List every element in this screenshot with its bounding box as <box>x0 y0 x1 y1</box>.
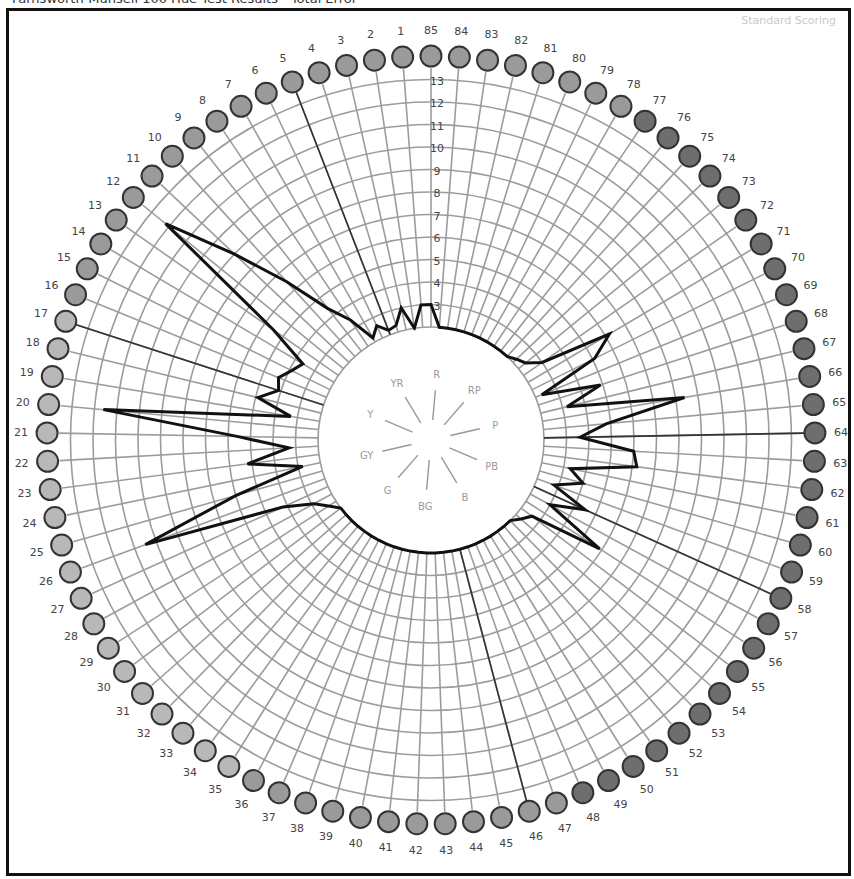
cap-number-label: 5 <box>279 52 286 65</box>
cap-36 <box>243 770 264 791</box>
cap-number-label: 12 <box>106 175 120 188</box>
cap-number-label: 2 <box>367 28 374 41</box>
cap-85 <box>421 46 442 67</box>
hue-label: R <box>433 369 440 380</box>
cap-68 <box>786 311 807 332</box>
cap-number-label: 28 <box>64 630 78 643</box>
cap-number-label: 32 <box>137 727 151 740</box>
cap-3 <box>336 55 357 76</box>
cap-43 <box>435 813 456 834</box>
cap-number-label: 69 <box>804 279 818 292</box>
cap-number-label: 26 <box>39 575 53 588</box>
cap-number-label: 48 <box>586 811 600 824</box>
cap-number-label: 9 <box>174 111 181 124</box>
cap-34 <box>195 740 216 761</box>
cap-62 <box>801 479 822 500</box>
cap-number-label: 82 <box>514 34 528 47</box>
hue-label: P <box>492 420 498 431</box>
radial-tick: 9 <box>434 165 441 178</box>
cap-number-label: 21 <box>14 426 28 439</box>
cap-number-label: 62 <box>831 487 845 500</box>
hue-test-radar-chart: RRPPPBBBGGGYYYR 345678910111213 12345678… <box>0 0 854 879</box>
cap-47 <box>546 792 567 813</box>
cap-50 <box>623 756 644 777</box>
cap-42 <box>406 813 427 834</box>
radial-tick: 13 <box>430 75 444 88</box>
cap-5 <box>282 71 303 92</box>
radial-tick: 8 <box>434 187 441 200</box>
cap-number-label: 55 <box>751 681 765 694</box>
cap-number-label: 18 <box>26 336 40 349</box>
radial-tick: 5 <box>434 255 441 268</box>
cap-number-label: 70 <box>791 251 805 264</box>
cap-number-label: 8 <box>199 94 206 107</box>
cap-number-label: 34 <box>183 766 197 779</box>
cap-number-label: 4 <box>308 42 315 55</box>
cap-32 <box>151 704 172 725</box>
cap-51 <box>646 740 667 761</box>
cap-number-label: 54 <box>732 705 746 718</box>
cap-number-label: 29 <box>79 656 93 669</box>
hue-label: Y <box>366 409 374 420</box>
cap-number-label: 45 <box>499 837 513 850</box>
cap-number-label: 35 <box>208 783 222 796</box>
cap-25 <box>51 535 72 556</box>
cap-number-label: 27 <box>50 603 64 616</box>
cap-number-label: 1 <box>397 25 404 38</box>
cap-11 <box>142 166 163 187</box>
cap-26 <box>60 562 81 583</box>
cap-49 <box>598 770 619 791</box>
cap-number-label: 13 <box>88 199 102 212</box>
cap-35 <box>218 756 239 777</box>
cap-31 <box>132 683 153 704</box>
cap-13 <box>106 210 127 231</box>
error-line <box>75 324 323 405</box>
cap-16 <box>65 284 86 305</box>
cap-number-label: 44 <box>469 841 483 854</box>
cap-6 <box>256 83 277 104</box>
cap-76 <box>658 127 679 148</box>
cap-23 <box>40 479 61 500</box>
cap-71 <box>751 233 772 254</box>
cap-number-label: 68 <box>814 307 828 320</box>
cap-number-label: 30 <box>97 681 111 694</box>
radial-tick: 7 <box>434 210 441 223</box>
cap-59 <box>781 562 802 583</box>
cap-number-label: 33 <box>159 747 173 760</box>
cap-number-label: 49 <box>614 798 628 811</box>
cap-52 <box>669 723 690 744</box>
cap-4 <box>309 62 330 83</box>
radial-tick-labels: 345678910111213 <box>430 75 444 313</box>
cap-number-label: 58 <box>798 603 812 616</box>
cap-number-label: 53 <box>711 727 725 740</box>
cap-number-label: 66 <box>828 366 842 379</box>
cap-15 <box>77 258 98 279</box>
cap-44 <box>463 811 484 832</box>
cap-number-label: 60 <box>818 546 832 559</box>
cap-number-label: 43 <box>439 844 453 857</box>
cap-74 <box>699 166 720 187</box>
cap-number-label: 39 <box>319 830 333 843</box>
cap-number-label: 15 <box>57 251 71 264</box>
cap-14 <box>90 233 111 254</box>
cap-63 <box>804 451 825 472</box>
cap-80 <box>559 71 580 92</box>
cap-number-label: 81 <box>543 42 557 55</box>
cap-9 <box>183 127 204 148</box>
cap-number-label: 6 <box>252 64 259 77</box>
hue-label: PB <box>485 461 498 472</box>
cap-number-label: 67 <box>822 336 836 349</box>
cap-number-label: 16 <box>44 279 58 292</box>
cap-number-label: 10 <box>148 131 162 144</box>
cap-number-label: 3 <box>337 34 344 47</box>
cap-number-label: 7 <box>225 78 232 91</box>
cap-41 <box>378 811 399 832</box>
hue-label: B <box>462 492 469 503</box>
cap-number-label: 42 <box>409 844 423 857</box>
hue-label: GY <box>360 450 374 461</box>
hue-center-disc: RRPPPBBBGGGYYYR <box>320 329 542 551</box>
hue-label: RP <box>468 385 481 396</box>
cap-number-label: 63 <box>833 457 847 470</box>
hue-label: YR <box>389 378 403 389</box>
cap-number-label: 77 <box>653 94 667 107</box>
